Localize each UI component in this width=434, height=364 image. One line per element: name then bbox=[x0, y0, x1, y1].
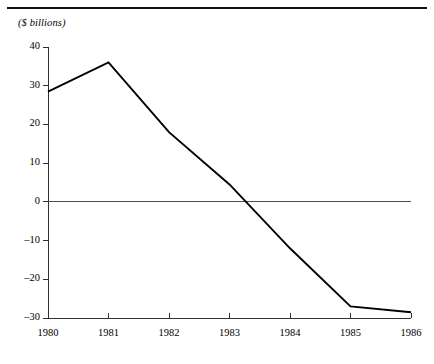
x-axis-tick-label: 1983 bbox=[210, 327, 250, 338]
line-chart-plot bbox=[0, 0, 434, 364]
x-axis-tick-label: 1985 bbox=[331, 327, 371, 338]
x-axis-tick-label: 1984 bbox=[270, 327, 310, 338]
data-series-line bbox=[48, 62, 411, 312]
series-line-balance bbox=[48, 62, 411, 312]
y-axis-tick-label: 30 bbox=[10, 79, 40, 90]
y-axis-tick-label: 20 bbox=[10, 117, 40, 128]
x-axis-tick-label: 1986 bbox=[391, 327, 431, 338]
y-axis-tick-label: 10 bbox=[10, 156, 40, 167]
y-axis-tick-label: –30 bbox=[10, 311, 40, 322]
x-axis-tick-label: 1982 bbox=[149, 327, 189, 338]
y-axis-tick-label: –10 bbox=[10, 234, 40, 245]
x-axis-tick-label: 1981 bbox=[89, 327, 129, 338]
chart-page: ($ billions) 403020100–10–20–30 19801981… bbox=[0, 0, 434, 364]
y-axis-tick-label: 40 bbox=[10, 40, 40, 51]
x-axis-tick-label: 1980 bbox=[28, 327, 68, 338]
y-axis-tick-label: –20 bbox=[10, 272, 40, 283]
y-axis-tick-label: 0 bbox=[10, 195, 40, 206]
